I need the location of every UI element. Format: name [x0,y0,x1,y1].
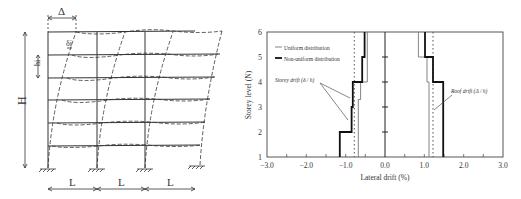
zero-line [382,32,388,157]
x-tick-neg2: −2.0 [299,161,313,170]
storey-height-label: hi [33,59,42,66]
undeformed-beams [48,31,220,146]
x-tick-labels: −3.0 −2.0 −1.0 0.0 1.0 2.0 3.0 [260,161,508,170]
x-axis-title: Lateral drift (%) [360,173,410,182]
y-axis-title: Storey level (N) [244,70,253,119]
roof-drift-dimension [48,15,76,32]
legend: Uniform distribution Non-uniform distrib… [275,45,340,62]
roof-drift-annotation: Roof drift (Δ / h) [450,88,488,95]
x-tick-0: 0.0 [380,161,390,170]
non-uniform-distribution-series [340,32,443,157]
legend-uniform-label: Uniform distribution [284,45,330,51]
legend-non-uniform-label: Non-uniform distribution [284,56,340,62]
drift-chart [267,32,503,157]
storey-displacement-label: δi [66,39,73,48]
figure: Δ δi hi H L L L [0,0,521,199]
bay-width-label-1: L [69,176,76,188]
roof-displacement-label: Δ [58,5,65,17]
annotation-arrows [320,83,452,120]
x-tick-2: 2.0 [459,161,469,170]
bay-width-label-2: L [118,176,125,188]
y-tick-4: 4 [258,78,262,87]
uniform-distribution-series [358,32,429,157]
y-tick-labels: 1 2 3 4 5 6 [258,28,262,162]
deformed-beams [52,30,222,148]
bay-width-label-3: L [167,176,174,188]
y-tick-3: 3 [258,103,262,112]
roof-drift-lines [354,32,433,157]
x-tick-3: 3.0 [498,161,508,170]
x-tick-neg1: −1.0 [339,161,353,170]
x-tick-neg3: −3.0 [260,161,274,170]
frame-diagram [23,15,222,191]
storey-drift-annotation: Storey drift (δ / h) [275,77,314,84]
y-tick-5: 5 [258,53,262,62]
y-tick-2: 2 [258,128,262,137]
fixed-supports [39,166,205,172]
y-tick-6: 6 [258,28,262,37]
total-height-label: H [15,96,29,105]
x-tick-1: 1.0 [420,161,430,170]
